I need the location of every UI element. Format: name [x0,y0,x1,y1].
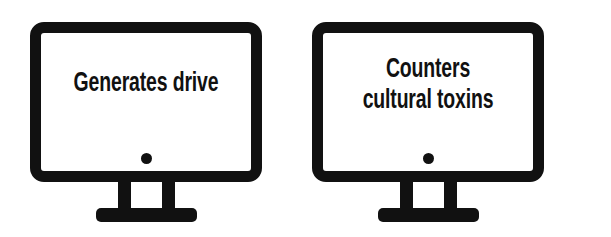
power-indicator-dot [423,153,434,164]
power-indicator-dot [141,153,152,164]
monitor-left-screen-label: Generates drive [70,67,221,98]
diagram-canvas: Generates drive Counters cultural toxins [0,0,611,237]
monitor-right-stand-base [378,208,479,222]
monitor-right: Counters cultural toxins [296,0,558,237]
monitor-left: Generates drive [14,0,276,237]
monitor-left-stand-base [96,208,197,222]
monitor-right-screen-label: Counters cultural toxins [352,53,503,115]
